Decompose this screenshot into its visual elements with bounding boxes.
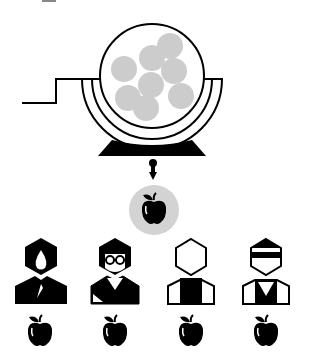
ball	[161, 58, 187, 84]
person-1-icon	[15, 238, 67, 304]
apple-icon-person-2	[103, 315, 127, 346]
apple-icon-person-4	[254, 315, 278, 346]
person-4-icon	[243, 239, 289, 304]
ball	[168, 83, 194, 109]
apple-icon-person-3	[179, 315, 203, 346]
person-2-icon	[91, 238, 139, 304]
apple-icon-person-1	[28, 315, 52, 346]
ball	[133, 95, 159, 121]
ball	[111, 56, 137, 82]
person-3-icon	[168, 239, 214, 304]
drop-arrow-icon	[149, 159, 157, 180]
lottery-diagram	[0, 0, 312, 364]
ball	[139, 45, 165, 71]
top-artifact	[42, 0, 56, 2]
ball	[138, 72, 164, 98]
drum-base	[98, 140, 206, 156]
